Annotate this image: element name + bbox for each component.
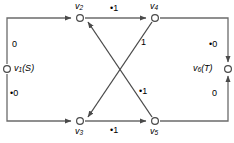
edge-label-v1-v3: •0 bbox=[10, 89, 18, 98]
edge-v4-v6 bbox=[160, 18, 228, 62]
node-v6 bbox=[225, 66, 232, 73]
edge-label-v1-v2: 0 bbox=[12, 40, 17, 49]
node-v3-subscript: 3 bbox=[80, 129, 84, 136]
edge-label-v4-v6: •0 bbox=[209, 40, 217, 49]
node-v5 bbox=[152, 118, 159, 125]
edge-label-v3-v5: •1 bbox=[110, 126, 118, 135]
node-v2 bbox=[77, 15, 84, 22]
node-v2-subscript: 2 bbox=[80, 4, 84, 11]
node-v1-annotation: (S) bbox=[22, 63, 34, 73]
node-v5-subscript: 5 bbox=[155, 129, 159, 136]
node-v4-subscript: 4 bbox=[155, 4, 159, 11]
node-label-v4: v4 bbox=[150, 2, 158, 12]
node-label-v6: v6(T) bbox=[193, 64, 213, 74]
edge-label-v2-v4: •1 bbox=[110, 4, 118, 13]
edge-v5-v6 bbox=[160, 76, 228, 121]
node-label-v5: v5 bbox=[150, 127, 158, 137]
node-label-v1: v1(S) bbox=[14, 64, 34, 74]
node-v4 bbox=[152, 15, 159, 22]
node-v6-annotation: (T) bbox=[201, 63, 213, 73]
node-v3 bbox=[77, 118, 84, 125]
node-label-v3: v3 bbox=[75, 127, 83, 137]
edge-label-v4-v3: 1 bbox=[141, 38, 146, 47]
edge-label-v5-v6: 0 bbox=[212, 89, 217, 98]
node-v1 bbox=[4, 66, 11, 73]
edge-label-v5-v2: •1 bbox=[139, 87, 147, 96]
node-label-v2: v2 bbox=[75, 2, 83, 12]
flow-network-figure: v1(S) v2 v3 v4 v5 v6(T) 0 •0 •1 •1 1 •1 … bbox=[0, 0, 234, 143]
